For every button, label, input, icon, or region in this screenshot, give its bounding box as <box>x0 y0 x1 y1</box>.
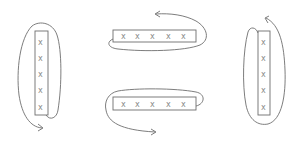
x-mark: x <box>181 100 186 109</box>
x-mark: x <box>121 100 126 109</box>
figure-top-horizontal: x x x x x <box>109 11 207 51</box>
x-mark: x <box>38 103 43 112</box>
x-mark: x <box>38 86 43 95</box>
x-mark: x <box>181 32 186 41</box>
figure-right-vertical: x x x x x <box>244 16 286 124</box>
figure-bottom-horizontal: x x x x x <box>106 89 204 135</box>
x-mark: x <box>38 38 43 47</box>
x-mark: x <box>261 38 266 47</box>
x-mark: x <box>38 70 43 79</box>
x-mark: x <box>166 100 171 109</box>
x-mark: x <box>135 100 140 109</box>
x-mark: x <box>166 32 171 41</box>
figure-left-vertical: x x x x x <box>18 23 61 131</box>
diagram-canvas: x x x x x x x x x x x x x x x x x x x x <box>0 0 305 141</box>
x-mark: x <box>150 100 155 109</box>
x-mark: x <box>261 103 266 112</box>
x-mark: x <box>38 54 43 63</box>
x-mark: x <box>150 32 155 41</box>
x-mark: x <box>261 70 266 79</box>
x-mark: x <box>121 32 126 41</box>
x-mark: x <box>261 86 266 95</box>
x-mark: x <box>261 54 266 63</box>
x-mark: x <box>135 32 140 41</box>
